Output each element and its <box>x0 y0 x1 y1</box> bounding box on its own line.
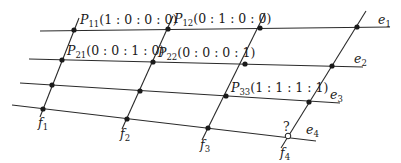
label-P12: P12(0 : 1 : 0 : 0) <box>173 11 271 28</box>
point-e2f4 <box>329 63 334 68</box>
point-P21 <box>59 57 64 62</box>
point-e1f4 <box>354 24 359 29</box>
label-f1: f1 <box>37 115 48 132</box>
label-P21: P21(0 : 0 : 1 : 0) <box>66 43 164 60</box>
point-P12 <box>165 26 170 31</box>
label-P22: P22(0 : 0 : 0 : 1) <box>157 45 255 62</box>
label-f3: f3 <box>199 137 210 154</box>
label-e2: e2 <box>354 51 367 68</box>
point-P33 <box>223 93 228 98</box>
point-P11 <box>71 27 76 32</box>
label-e1: e1 <box>378 12 391 29</box>
label-P33: P33(1 : 1 : 1 : 1) <box>230 80 328 97</box>
projective-grid-diagram: e1e2e3e4f1f2f3f4P11(1 : 0 : 0 : 0)P12(0 … <box>0 0 401 163</box>
point-e3f1 <box>49 82 54 87</box>
line-e4 <box>12 105 316 141</box>
line-f3 <box>202 13 265 140</box>
point-e3f4 <box>306 99 311 104</box>
point-e4f2 <box>124 116 129 121</box>
point-e4f3 <box>205 125 210 130</box>
point-e3f2 <box>137 88 142 93</box>
point-e4f1 <box>40 106 45 111</box>
line-e2 <box>29 59 363 67</box>
label-unknown-point: ? <box>283 119 290 134</box>
label-f2: f2 <box>119 126 130 143</box>
labels: e1e2e3e4f1f2f3f4P11(1 : 0 : 0 : 0)P12(0 … <box>37 11 391 162</box>
point-unknown <box>285 133 291 139</box>
line-f2 <box>122 16 173 129</box>
label-e4: e4 <box>306 122 319 139</box>
label-f4: f4 <box>279 145 290 162</box>
point-e2f3 <box>242 61 247 66</box>
label-P11: P11(1 : 0 : 0 : 0) <box>79 12 177 29</box>
point-e1f3 <box>257 25 262 30</box>
label-e3: e3 <box>330 87 343 104</box>
line-f1 <box>40 18 79 117</box>
point-P22 <box>150 59 155 64</box>
